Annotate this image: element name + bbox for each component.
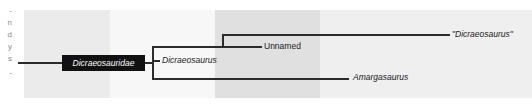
gutter-fragment: - <box>9 6 12 15</box>
background-band-4 <box>320 10 532 98</box>
gutter-fragment: s <box>8 54 12 63</box>
branch-root-stem <box>18 62 63 64</box>
gutter-fragment: - <box>9 68 12 77</box>
background-band-2 <box>110 10 215 98</box>
gutter-fragment: y <box>8 42 12 51</box>
branch-dicraeosaurus-tip <box>152 60 160 62</box>
taxon-label-unnamed: Unnamed <box>264 41 301 51</box>
branch-fork1-vertical <box>152 46 154 80</box>
branch-fork1-upper <box>152 46 223 48</box>
branch-dicraeosaurus-quoted <box>222 34 450 36</box>
gutter-fragment: d <box>8 30 12 39</box>
branch-amargasaurus <box>152 78 349 80</box>
cladogram-figure: - n d y s - Dicraeosauridae "Dicraeosaur… <box>0 0 532 107</box>
branch-unnamed-tip <box>222 46 262 48</box>
clade-name-label: Dicraeosauridae <box>73 58 135 68</box>
background-band-1 <box>24 10 110 98</box>
gutter-fragment: n <box>8 18 12 27</box>
clade-name-box[interactable]: Dicraeosauridae <box>62 55 145 71</box>
taxon-label-amargasaurus: Amargasaurus <box>353 72 408 82</box>
taxon-label-dicraeosaurus-quoted: "Dicraeosaurus" <box>452 29 513 39</box>
background-band-3 <box>215 10 320 98</box>
taxon-label-dicraeosaurus: Dicraeosaurus <box>162 55 217 65</box>
left-gutter-clipped-text: - n d y s - <box>0 0 14 107</box>
